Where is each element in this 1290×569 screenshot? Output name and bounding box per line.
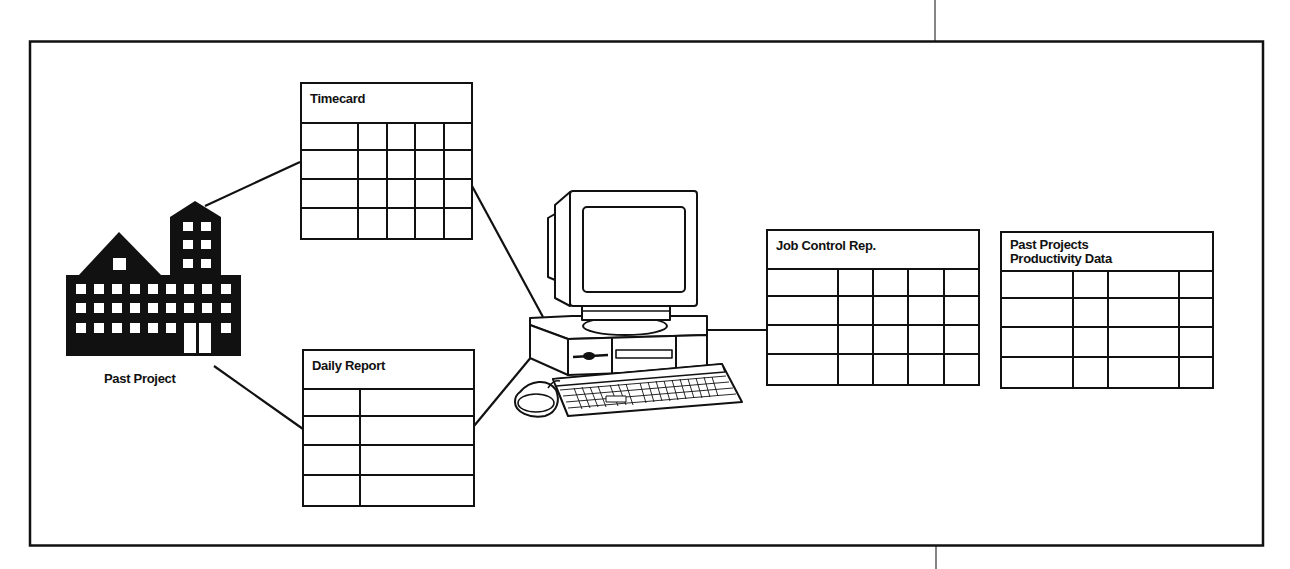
job-control-rep-grid — [768, 268, 978, 385]
disk-drive-slot — [616, 350, 672, 358]
connector-timecard-computer — [472, 186, 543, 317]
floppy-drive-icon — [583, 352, 595, 360]
daily-report-table: Daily Report — [302, 349, 475, 507]
job-control-rep-table: Job Control Rep. — [766, 229, 980, 386]
productivity-data-grid — [1002, 270, 1212, 388]
daily-report-title: Daily Report — [304, 351, 473, 390]
spacebar-key — [606, 396, 626, 402]
productivity-data-table: Past Projects Productivity Data — [1000, 231, 1214, 389]
monitor-side — [555, 192, 570, 306]
productivity-data-title-line-1: Past Projects — [1010, 238, 1204, 252]
productivity-data-title-line-2: Productivity Data — [1010, 252, 1204, 266]
connector-project-timecard — [205, 162, 300, 206]
timecard-title: Timecard — [302, 84, 471, 124]
daily-report-grid — [304, 388, 473, 506]
source-label: Past Project — [104, 371, 176, 386]
productivity-data-title: Past Projects Productivity Data — [1002, 233, 1212, 272]
job-control-rep-title: Job Control Rep. — [768, 231, 978, 270]
desktop-computer-icon — [515, 191, 742, 417]
timecard-grid — [302, 122, 471, 239]
timecard-table: Timecard — [300, 82, 473, 240]
building-icon — [66, 201, 241, 356]
connector-project-daily-report — [214, 366, 303, 429]
monitor-screen — [583, 207, 685, 292]
